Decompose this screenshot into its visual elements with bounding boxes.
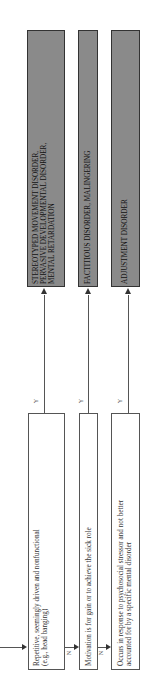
no-label: N (98, 651, 104, 655)
outcome-box-adjustment: ADJUSTMENT DISORDER (111, 30, 140, 287)
outcome-text: PERVASIVE DEVELOPMENTAL DISORDER, (40, 143, 48, 284)
yes-connector (44, 295, 45, 413)
decision-text: accounted for by a specific mental disor… (125, 500, 133, 666)
arrow-icon (125, 288, 131, 294)
arrow-icon (74, 644, 79, 650)
decision-text: Repetitive, seemingly driven and nonfunc… (33, 529, 41, 666)
arrow-icon (41, 288, 47, 294)
yes-connector (88, 295, 89, 413)
outcome-box-stereotyped: STEREOTYPED MOVEMENT DISORDER, PERVASIVE… (27, 30, 65, 287)
yes-connector (128, 295, 129, 413)
yes-label: Y (117, 399, 123, 403)
decision-box-stressor: Occurs in response to psychosocial stres… (111, 413, 140, 670)
decision-text: Motivation is for gain or to achieve the… (85, 527, 93, 666)
outcome-text: MENTAL RETARDATION (48, 143, 56, 284)
outcome-box-factitious: FACTITIOUS DISORDER, MALINGERING (78, 30, 98, 287)
yes-label: Y (78, 399, 84, 403)
arrow-icon (106, 644, 111, 650)
outcome-text: STEREOTYPED MOVEMENT DISORDER, (32, 143, 40, 284)
entry-connector (0, 647, 22, 648)
outcome-text: ADJUSTMENT DISORDER (121, 199, 129, 284)
arrow-icon (85, 288, 91, 294)
decision-text: Occurs in response to psychosocial stres… (117, 500, 125, 666)
decision-box-motivation: Motivation is for gain or to achieve the… (79, 413, 98, 670)
outcome-text: FACTITIOUS DISORDER, MALINGERING (84, 151, 92, 284)
decision-text: (e.g., head banging) (41, 529, 49, 666)
arrow-icon (22, 644, 27, 650)
decision-box-repetitive: Repetitive, seemingly driven and nonfunc… (28, 413, 65, 670)
no-label: N (66, 651, 72, 655)
yes-label: Y (33, 399, 39, 403)
